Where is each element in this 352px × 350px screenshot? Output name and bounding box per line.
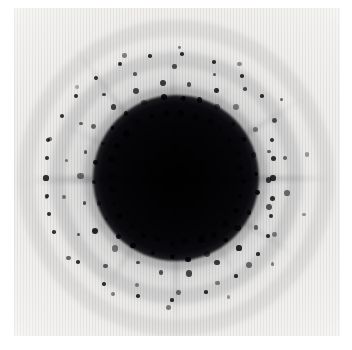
diffraction-image-page xyxy=(0,0,352,350)
scanline-texture xyxy=(14,8,340,336)
detector-frame xyxy=(14,8,340,336)
